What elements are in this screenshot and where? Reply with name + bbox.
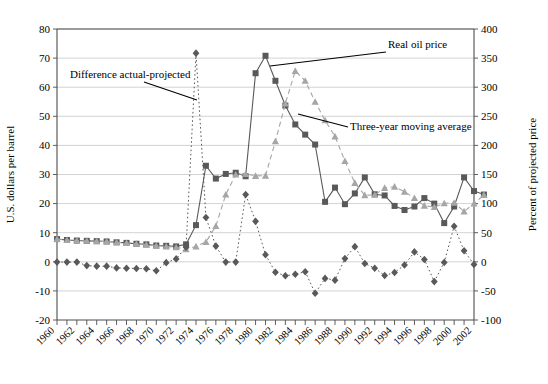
x-axis-tick-label: 1984 xyxy=(272,324,295,347)
marker-diamond xyxy=(64,258,71,266)
leader-line-difference xyxy=(144,82,197,100)
marker-square xyxy=(461,174,467,180)
y-axis-tick-label: 10 xyxy=(39,227,51,239)
x-axis-tick-label: 2000 xyxy=(431,325,454,348)
x-axis-tick-label: 1962 xyxy=(54,325,77,348)
marker-triangle xyxy=(331,133,338,140)
y2-axis-tick-label: 100 xyxy=(481,197,498,209)
marker-square xyxy=(292,121,298,127)
marker-square xyxy=(203,163,209,169)
marker-square xyxy=(253,70,259,76)
marker-diamond xyxy=(351,243,358,251)
marker-diamond xyxy=(391,269,398,277)
marker-square xyxy=(421,195,427,201)
marker-square xyxy=(312,142,318,148)
y2-axis-tick-label: -50 xyxy=(481,285,496,297)
marker-diamond xyxy=(73,258,80,266)
x-axis-tick-label: 1994 xyxy=(371,324,394,347)
x-axis-tick-label: 1968 xyxy=(113,325,136,348)
marker-square xyxy=(332,185,338,191)
annotation-three-year-moving-average: Three-year moving average xyxy=(350,120,472,132)
marker-diamond xyxy=(361,260,368,268)
y2-axis-tick-label: 50 xyxy=(481,227,493,239)
marker-triangle xyxy=(222,191,229,198)
marker-triangle xyxy=(262,172,269,179)
marker-diamond xyxy=(163,259,170,267)
x-axis-tick-label: 1964 xyxy=(74,324,97,347)
y-axis-tick-label: 20 xyxy=(39,197,51,209)
marker-triangle xyxy=(192,243,199,250)
marker-diamond xyxy=(93,262,100,270)
marker-triangle xyxy=(312,98,319,105)
right-axis-title: Percent of projected price xyxy=(526,118,538,231)
y-axis-tick-label: 60 xyxy=(39,81,51,93)
marker-diamond xyxy=(441,259,448,267)
x-axis-tick-label: 1988 xyxy=(312,325,335,348)
x-axis-tick-label: 1970 xyxy=(133,325,156,348)
marker-triangle xyxy=(341,158,348,165)
y2-axis-tick-label: -100 xyxy=(481,314,502,326)
marker-square xyxy=(302,132,308,138)
marker-diamond xyxy=(113,264,120,272)
marker-square xyxy=(263,53,269,59)
y2-axis-tick-label: 0 xyxy=(481,256,487,268)
marker-square xyxy=(342,201,348,207)
series-line-triangle xyxy=(57,71,484,249)
marker-diamond xyxy=(203,214,210,222)
x-axis-tick-label: 2002 xyxy=(451,325,474,348)
marker-square xyxy=(471,188,477,194)
marker-diamond xyxy=(292,271,299,279)
marker-triangle xyxy=(401,188,408,195)
y-axis-tick-label: 40 xyxy=(39,139,51,151)
marker-diamond xyxy=(193,49,200,57)
x-axis-tick-label: 1978 xyxy=(213,325,236,348)
y-axis-tick-label: 0 xyxy=(45,256,51,268)
marker-diamond xyxy=(123,264,130,272)
marker-square xyxy=(402,207,408,213)
series-line-square xyxy=(57,56,484,247)
y-axis-tick-label: -20 xyxy=(35,314,50,326)
marker-diamond xyxy=(342,255,349,263)
marker-diamond xyxy=(332,276,339,284)
marker-triangle xyxy=(292,67,299,74)
marker-diamond xyxy=(302,268,309,276)
y2-axis-tick-label: 250 xyxy=(481,110,498,122)
marker-triangle xyxy=(351,179,358,186)
marker-diamond xyxy=(272,268,279,276)
marker-diamond xyxy=(103,262,110,270)
x-axis-tick-label: 1996 xyxy=(391,325,414,348)
marker-diamond xyxy=(431,278,438,286)
marker-diamond xyxy=(262,251,269,259)
y2-axis-tick-label: 200 xyxy=(481,139,498,151)
marker-diamond xyxy=(54,258,61,266)
marker-diamond xyxy=(212,242,219,250)
x-axis-tick-label: 1972 xyxy=(153,325,176,348)
marker-square xyxy=(223,171,229,177)
marker-diamond xyxy=(133,265,140,273)
marker-square xyxy=(441,220,447,226)
marker-diamond xyxy=(222,258,229,266)
y-axis-tick-label: 50 xyxy=(39,110,51,122)
y2-axis-tick-label: 400 xyxy=(481,23,498,35)
x-axis-tick-label: 1976 xyxy=(193,325,216,348)
left-axis-title: U.S. dollars per barrel xyxy=(4,126,16,223)
marker-diamond xyxy=(451,222,458,230)
x-axis-tick-label: 1980 xyxy=(232,325,255,348)
x-axis-tick-label: 1960 xyxy=(34,325,57,348)
x-axis-tick-label: 1992 xyxy=(352,325,375,348)
marker-diamond xyxy=(143,265,150,273)
marker-diamond xyxy=(411,248,418,256)
x-axis-tick-label: 1986 xyxy=(292,325,315,348)
marker-triangle xyxy=(381,184,388,191)
y-axis-tick-label: 80 xyxy=(39,23,51,35)
marker-diamond xyxy=(153,267,160,275)
marker-diamond xyxy=(252,218,259,226)
marker-square xyxy=(411,204,417,210)
marker-diamond xyxy=(381,272,388,280)
marker-triangle xyxy=(202,238,209,245)
marker-square xyxy=(392,203,398,209)
marker-square xyxy=(382,192,388,198)
y2-axis-tick-label: 350 xyxy=(481,52,498,64)
annotation-difference-actual-projected: Difference actual-projected xyxy=(70,68,191,80)
marker-diamond xyxy=(282,272,289,280)
